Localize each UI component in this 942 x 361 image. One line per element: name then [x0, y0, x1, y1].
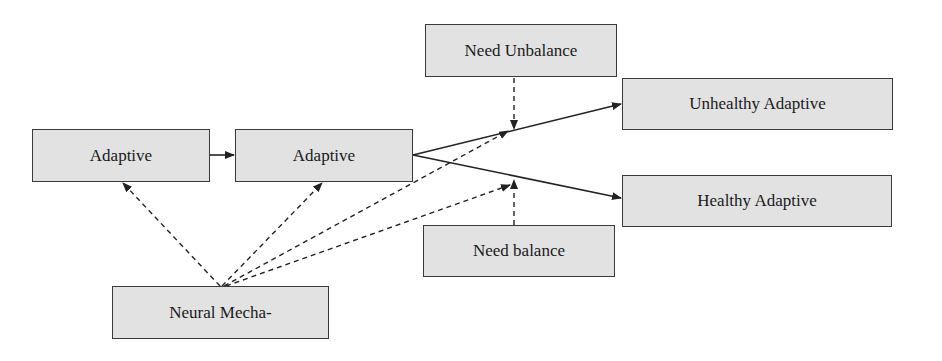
diagram-canvas: Adaptive Adaptive Need Unbalance Unhealt… [0, 0, 942, 361]
edge-adaptive2-to-healthy [413, 155, 621, 198]
node-label: Unhealthy Adaptive [689, 94, 825, 114]
node-label: Need Unbalance [465, 41, 578, 61]
node-unhealthy-adaptive: Unhealthy Adaptive [622, 78, 893, 130]
edge-neural-to-adaptive1 [123, 183, 220, 286]
node-label: Neural Mecha- [169, 303, 271, 323]
node-healthy-adaptive: Healthy Adaptive [622, 175, 892, 227]
node-label: Healthy Adaptive [697, 191, 816, 211]
node-need-unbalance: Need Unbalance [425, 24, 617, 77]
node-label: Need balance [473, 241, 565, 261]
edge-adaptive2-to-unhealthy [413, 104, 621, 155]
node-label: Adaptive [293, 146, 355, 166]
node-adaptive-2: Adaptive [235, 129, 413, 182]
node-neural-mechanism: Neural Mecha- [112, 286, 329, 339]
node-adaptive-1: Adaptive [32, 129, 210, 182]
node-label: Adaptive [90, 146, 152, 166]
node-need-balance: Need balance [423, 225, 615, 277]
edge-neural-to-adaptive2 [222, 183, 322, 286]
